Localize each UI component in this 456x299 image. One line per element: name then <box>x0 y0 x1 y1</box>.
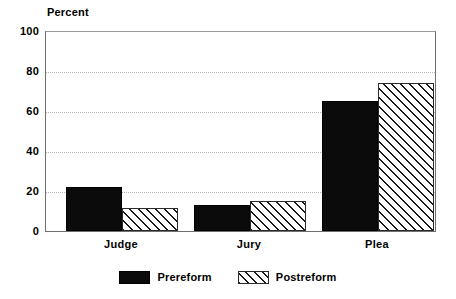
y-tick-80: 80 <box>5 66 39 77</box>
category-label-judge: Judge <box>64 238 178 250</box>
bar-plea-prereform <box>322 101 378 231</box>
legend-label-prereform: Prereform <box>157 271 211 283</box>
bar-judge-postreform <box>122 208 178 231</box>
y-tick-60: 60 <box>5 106 39 117</box>
y-tick-40: 40 <box>5 146 39 157</box>
legend-solid-swatch-icon <box>119 271 150 284</box>
bar-chart: Percent 100 80 60 40 20 0 Judge Jury Ple… <box>0 0 456 299</box>
bar-jury-prereform <box>194 205 250 231</box>
category-label-jury: Jury <box>192 238 306 250</box>
y-tick-0: 0 <box>5 226 39 237</box>
legend-hatch-swatch-icon <box>238 271 269 284</box>
bar-judge-prereform <box>66 187 122 231</box>
y-axis-tick-labels: 100 80 60 40 20 0 <box>0 31 39 232</box>
x-axis-category-labels: Judge Jury Plea <box>45 238 436 254</box>
bars-layer <box>46 31 435 231</box>
y-axis-title: Percent <box>47 6 89 18</box>
legend-item-prereform: Prereform <box>119 271 211 284</box>
category-label-plea: Plea <box>320 238 434 250</box>
y-tick-100: 100 <box>5 26 39 37</box>
chart-legend: Prereform Postreform <box>0 266 456 288</box>
bar-plea-postreform <box>378 83 434 231</box>
bar-jury-postreform <box>250 201 306 231</box>
legend-label-postreform: Postreform <box>276 271 337 283</box>
legend-item-postreform: Postreform <box>238 271 337 284</box>
y-tick-20: 20 <box>5 186 39 197</box>
